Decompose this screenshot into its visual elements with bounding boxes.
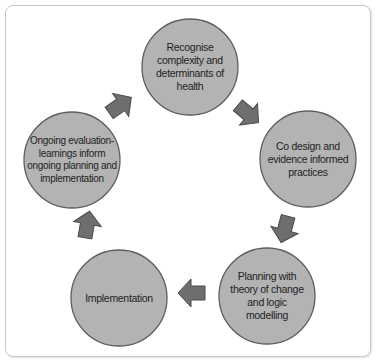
node-evaluation: Ongoing evaluation-learnings inform ongo… [24,112,120,208]
node-label: Ongoing evaluation-learnings inform ongo… [24,135,120,185]
arrow-up-right-icon [101,86,139,124]
node-codesign: Co design and evidence informed practice… [260,111,356,207]
arrow-left-icon [178,279,205,307]
node-label: Implementation [77,292,161,305]
node-recognise: Recognise complexity and determinants of… [142,19,238,115]
node-label: Co design and evidence informed practice… [260,140,356,179]
arrow-right-down-icon [229,95,268,134]
node-planning: Planning with theory of change and logic… [219,248,315,344]
arrow-down-icon [268,213,302,246]
node-implementation: Implementation [71,250,167,346]
arrow-up-icon [71,209,103,240]
node-label: Planning with theory of change and logic… [219,270,315,322]
node-label: Recognise complexity and determinants of… [142,41,238,93]
